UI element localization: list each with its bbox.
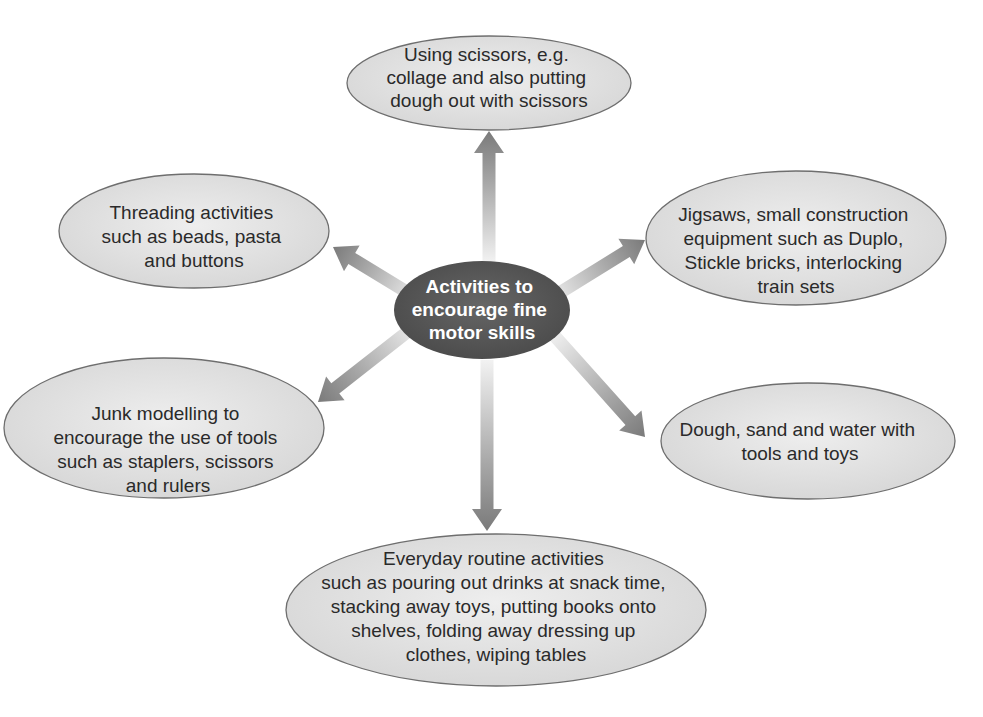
node-scissors: Using scissors, e.g. collage and also pu… [347, 36, 631, 130]
spider-diagram: Using scissors, e.g. collage and also pu… [0, 0, 983, 717]
node-threading: Threading activities such as beads, past… [59, 174, 329, 288]
arrow-to-scissors [474, 131, 504, 262]
center-node-label: Activities to encourage fine motor skill… [412, 276, 552, 343]
node-scissors-label: Using scissors, e.g. collage and also pu… [387, 44, 592, 111]
node-everyday-routine: Everyday routine activities such as pour… [286, 534, 706, 686]
node-dough-sand-water-ellipse [661, 383, 955, 499]
node-junk-modelling: Junk modelling to encourage the use of t… [4, 358, 324, 498]
center-node: Activities to encourage fine motor skill… [394, 261, 570, 359]
node-jigsaws: Jigsaws, small construction equipment su… [646, 171, 946, 305]
arrow-to-everyday-routine [472, 360, 502, 531]
node-dough-sand-water: Dough, sand and water with tools and toy… [661, 383, 955, 499]
arrow-to-dough-sand-water [547, 329, 645, 437]
